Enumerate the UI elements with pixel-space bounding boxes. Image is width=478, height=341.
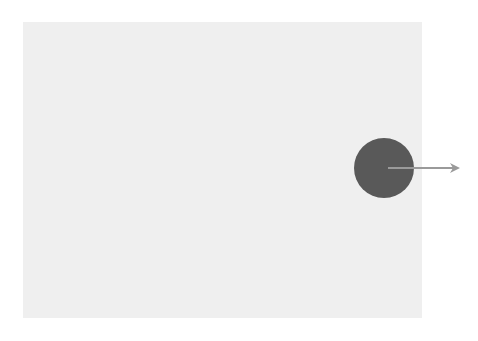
diagram-canvas (0, 0, 478, 341)
